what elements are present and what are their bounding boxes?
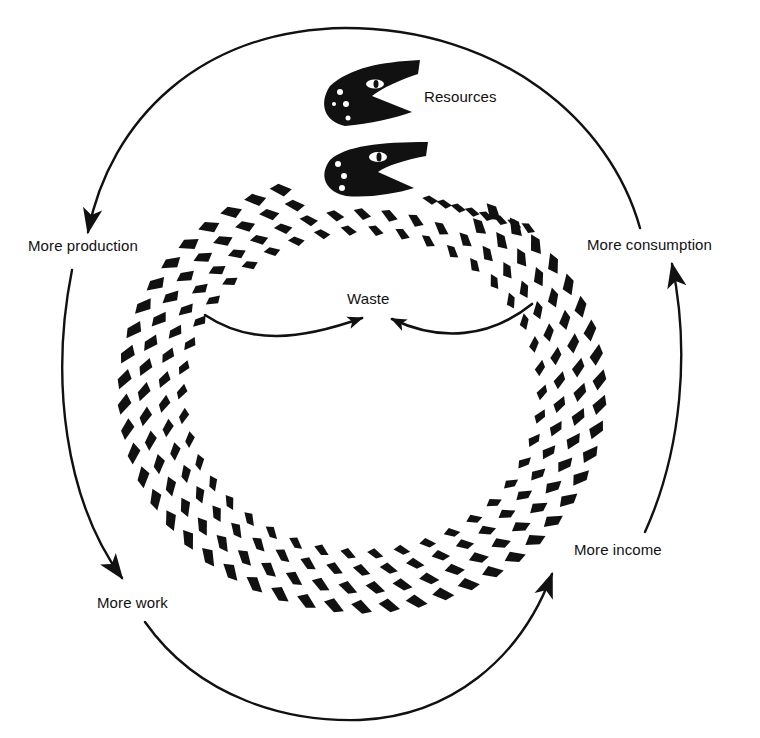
arrow-production-to-work [62, 270, 122, 578]
label-more-production: More production [28, 237, 138, 254]
label-waste: Waste [347, 290, 389, 307]
snake-head-lower [324, 142, 428, 197]
arrow-consumption-to-waste [392, 304, 532, 333]
arrow-work-to-income [145, 574, 552, 720]
arrow-production-to-waste [205, 315, 362, 336]
arrow-resources-to-production [88, 28, 640, 232]
label-more-consumption: More consumption [587, 236, 712, 253]
outer-cycle-arrows [62, 28, 681, 720]
ouroboros-cycle-diagram [0, 0, 760, 738]
waste-arrows [205, 304, 532, 336]
arrow-income-to-consumption [645, 264, 681, 532]
snake-body-scales [114, 183, 610, 617]
label-more-work: More work [97, 594, 168, 611]
label-resources: Resources [424, 88, 497, 105]
label-more-income: More income [574, 541, 662, 558]
snake-head-upper [324, 60, 420, 126]
